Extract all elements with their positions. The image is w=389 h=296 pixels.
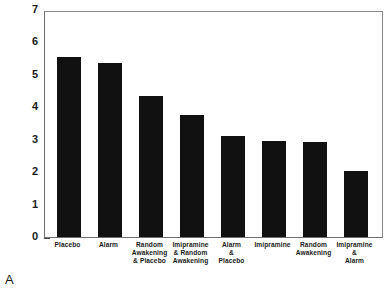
x-axis-label-line: Imipramine xyxy=(331,241,378,249)
x-axis-label-line: Placebo xyxy=(44,241,91,249)
bar xyxy=(98,63,122,237)
bar xyxy=(303,142,327,237)
bar-column xyxy=(335,10,376,237)
bar-column xyxy=(212,10,253,237)
bar-column xyxy=(130,10,171,237)
x-axis-label: Imipramine& RandomAwakening xyxy=(167,241,214,266)
y-tick-label: 6 xyxy=(12,35,38,47)
x-axis-label-line: & xyxy=(331,249,378,257)
plot-area xyxy=(44,11,383,238)
y-tick-label: 5 xyxy=(12,68,38,80)
x-axis-label: Placebo xyxy=(44,241,91,249)
x-axis-label-line: Random xyxy=(290,241,337,249)
x-axis-label-line: Awakening xyxy=(290,249,337,257)
x-axis-label-line: Random xyxy=(126,241,173,249)
x-axis-label-line: Imipramine xyxy=(167,241,214,249)
x-axis-label-line: Awakening xyxy=(126,249,173,257)
x-axis-label-line: & Random xyxy=(167,249,214,257)
bar-column xyxy=(89,10,130,237)
x-axis-label-line: & Placebo xyxy=(126,257,173,265)
x-axis-label: RandomAwakening& Placebo xyxy=(126,241,173,266)
bar xyxy=(57,57,81,237)
x-axis-label: Alarm xyxy=(85,241,132,249)
bar xyxy=(344,171,368,237)
x-axis-label: Alarm&Placebo xyxy=(208,241,255,266)
x-axis-label-line: & xyxy=(208,249,255,257)
y-tick-label: 0 xyxy=(12,230,38,242)
x-axis-label: RandomAwakening xyxy=(290,241,337,257)
bar xyxy=(262,141,286,237)
bar-column xyxy=(294,10,335,237)
x-axis-label-line: Alarm xyxy=(208,241,255,249)
bar-column xyxy=(253,10,294,237)
x-axis-label-line: Alarm xyxy=(331,257,378,265)
bar xyxy=(139,96,163,237)
y-tick-label: 2 xyxy=(12,165,38,177)
y-tick-label: 3 xyxy=(12,133,38,145)
bar xyxy=(180,115,204,237)
x-axis-label-line: Awakening xyxy=(167,257,214,265)
x-axis-label-line: Placebo xyxy=(208,257,255,265)
y-tick-label: 1 xyxy=(12,198,38,210)
x-axis-label-line: Imipramine xyxy=(249,241,296,249)
bar xyxy=(221,136,245,237)
x-axis-label-line: Alarm xyxy=(85,241,132,249)
y-tick-label: 7 xyxy=(12,3,38,15)
bar-chart-figure: Number of Wet Nights for Week 2 01234567… xyxy=(0,0,389,296)
x-axis-label: Imipramine xyxy=(249,241,296,249)
bar-column xyxy=(48,10,89,237)
panel-letter: A xyxy=(5,272,14,287)
x-axis-label: Imipramine&Alarm xyxy=(331,241,378,266)
bar-column xyxy=(171,10,212,237)
y-tick-mark xyxy=(44,238,50,239)
y-tick-label: 4 xyxy=(12,100,38,112)
